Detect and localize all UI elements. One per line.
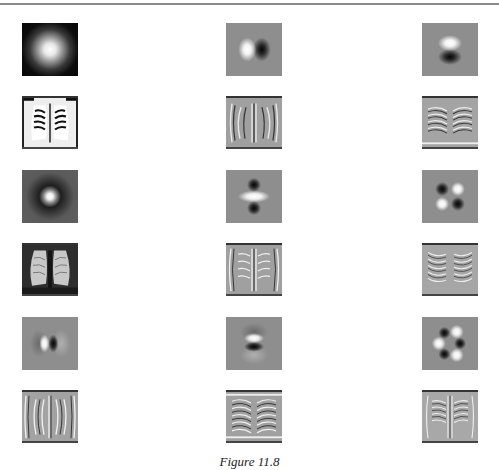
laplacian-kernel xyxy=(22,170,78,223)
xray-filtered-dyyy xyxy=(226,390,282,443)
gaussian-dyyy-kernel xyxy=(226,317,282,370)
page-top-rule xyxy=(0,3,499,5)
xray-filtered-laplacian xyxy=(22,243,78,296)
gaussian-dxy-kernel xyxy=(422,170,478,223)
gaussian-kernel xyxy=(22,23,78,76)
xray-filtered-dxx xyxy=(226,243,282,296)
xray-filtered-dxxx xyxy=(22,390,78,443)
xray-filtered-third-order-mixed xyxy=(422,390,478,443)
xray-filtered-gaussian xyxy=(22,96,78,149)
xray-filtered-dxy xyxy=(422,243,478,296)
gaussian-dy-kernel xyxy=(422,23,478,76)
xray-filtered-dx xyxy=(226,96,282,149)
gaussian-dxxx-kernel xyxy=(22,317,78,370)
gaussian-third-order-mixed-kernel xyxy=(422,317,478,370)
figure-caption: Figure 11.8 xyxy=(0,454,499,470)
gaussian-dx-kernel xyxy=(226,23,282,76)
xray-filtered-dy xyxy=(422,96,478,149)
gaussian-dxx-kernel xyxy=(226,170,282,223)
